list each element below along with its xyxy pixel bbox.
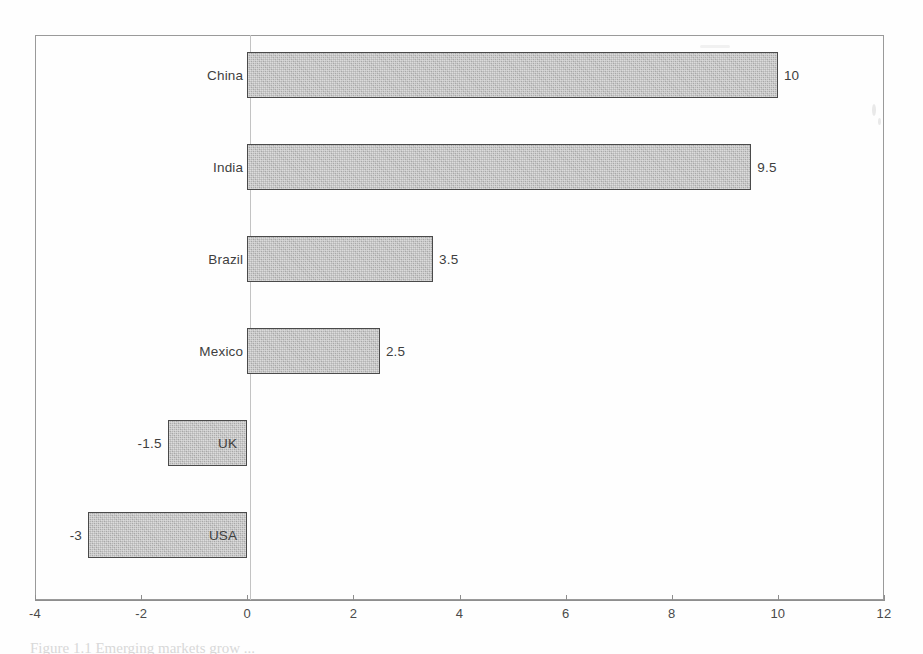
category-label-brazil: Brazil — [208, 252, 243, 267]
x-tick-mark — [247, 595, 248, 601]
x-tick-label: 0 — [244, 606, 251, 621]
x-tick-mark — [460, 595, 461, 601]
x-tick-label: -4 — [29, 606, 41, 621]
bar-china — [247, 52, 778, 98]
value-label-china: 10 — [784, 68, 799, 83]
x-tick-label: 10 — [770, 606, 785, 621]
x-tick-mark — [884, 595, 885, 601]
scanned-page: -4-2024681012 China10India9.5Brazil3.5Me… — [0, 0, 923, 654]
x-tick-mark — [353, 595, 354, 601]
zero-baseline — [250, 35, 251, 600]
figure-caption: Figure 1.1 Emerging markets grow ... — [30, 640, 255, 654]
category-label-china: China — [207, 68, 243, 83]
bar-india — [247, 144, 751, 190]
x-tick-mark — [141, 595, 142, 601]
x-tick-mark — [35, 595, 36, 601]
value-label-usa: -3 — [70, 528, 82, 543]
x-tick-label: 8 — [668, 606, 675, 621]
value-label-brazil: 3.5 — [439, 252, 458, 267]
x-tick-mark — [778, 595, 779, 601]
x-tick-mark — [566, 595, 567, 601]
bar-mexico — [247, 328, 380, 374]
x-tick-label: 4 — [456, 606, 463, 621]
category-label-india: India — [213, 160, 243, 175]
x-tick-label: 2 — [350, 606, 357, 621]
value-label-india: 9.5 — [757, 160, 776, 175]
x-tick-label: 6 — [562, 606, 569, 621]
value-label-uk: -1.5 — [138, 436, 162, 451]
x-tick-label: 12 — [877, 606, 892, 621]
category-label-usa: USA — [209, 528, 237, 543]
category-label-uk: UK — [218, 436, 237, 451]
value-label-mexico: 2.5 — [386, 344, 405, 359]
x-tick-mark — [672, 595, 673, 601]
bar-brazil — [247, 236, 433, 282]
x-tick-label: -2 — [135, 606, 147, 621]
category-label-mexico: Mexico — [199, 344, 243, 359]
